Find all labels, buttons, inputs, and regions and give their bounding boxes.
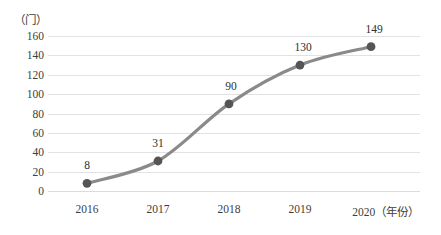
- x-tick-label-2019: 2019: [289, 203, 312, 215]
- data-label-2019: 130: [294, 42, 311, 54]
- data-point-2016: [83, 179, 92, 188]
- x-tick-label-2018: 2018: [218, 203, 241, 215]
- x-tick-label-2020: 2020（年份）: [352, 203, 419, 219]
- series-plot: [0, 0, 441, 235]
- data-point-2019: [296, 61, 305, 70]
- x-tick-label-2017: 2017: [147, 203, 170, 215]
- line-chart: （门） 160 140 120 100 80 60 40 20 0 8 31 9…: [0, 0, 441, 235]
- data-point-2020: [367, 42, 376, 51]
- series-line: [87, 47, 371, 184]
- data-label-2020: 149: [365, 24, 382, 36]
- data-label-2016: 8: [84, 160, 90, 172]
- data-label-2017: 31: [152, 138, 164, 150]
- data-label-2018: 90: [225, 81, 237, 93]
- data-point-2018: [225, 99, 234, 108]
- data-point-2017: [154, 157, 163, 166]
- x-tick-label-2016: 2016: [76, 203, 99, 215]
